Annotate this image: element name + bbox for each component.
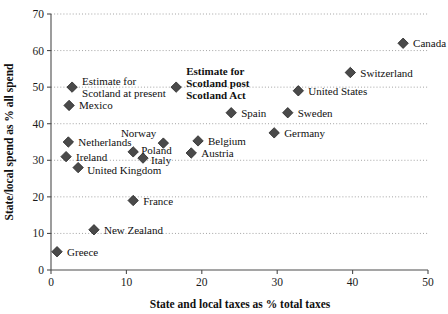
data-point-label: Sweden <box>298 107 333 119</box>
data-point-label: United Kingdom <box>87 164 162 176</box>
y-tick-label: 70 <box>33 8 45 20</box>
y-tick-label: 0 <box>38 264 44 276</box>
gridlines <box>51 14 428 233</box>
y-tick-label: 40 <box>33 118 45 130</box>
x-tick-label: 20 <box>196 276 208 288</box>
data-point-marker <box>63 137 73 147</box>
data-points: CanadaSwitzerlandEstimate forScotland at… <box>52 37 446 257</box>
data-point-marker <box>52 247 62 257</box>
data-point-marker <box>345 67 355 77</box>
data-point-marker <box>398 38 408 48</box>
data-point-label: Norway <box>121 127 157 139</box>
data-point-marker <box>193 136 203 146</box>
data-point-marker <box>64 100 74 110</box>
data-point-label: United States <box>308 85 367 97</box>
plot-area: 010203040506070 01020304050 CanadaSwitze… <box>0 0 448 314</box>
data-point-label: Spain <box>241 107 267 119</box>
data-point-label: France <box>143 195 173 207</box>
y-tick-label: 50 <box>33 81 45 93</box>
data-point-label: Belgium <box>208 135 246 147</box>
data-point-label: Canada <box>413 37 446 49</box>
x-tick-label: 50 <box>422 276 434 288</box>
x-axis: 01020304050 <box>48 270 434 288</box>
data-point-marker <box>128 147 138 157</box>
data-point-marker <box>73 162 83 172</box>
y-tick-label: 10 <box>33 227 45 239</box>
x-tick-label: 30 <box>271 276 283 288</box>
data-point-label: Estimate forScotland at present <box>82 75 166 99</box>
y-tick-label: 30 <box>33 154 45 166</box>
data-point-label: Switzerland <box>360 67 413 79</box>
data-point-label: Ireland <box>76 151 108 163</box>
data-point-marker <box>283 108 293 118</box>
data-point-marker <box>293 86 303 96</box>
data-point-marker <box>269 128 279 138</box>
data-point-marker <box>67 82 77 92</box>
x-tick-label: 10 <box>121 276 133 288</box>
data-point-label: Greece <box>67 246 98 258</box>
data-point-marker <box>171 82 181 92</box>
x-tick-label: 40 <box>347 276 359 288</box>
data-point-marker <box>186 148 196 158</box>
data-point-label: Mexico <box>79 99 113 111</box>
data-point-label: Austria <box>201 147 234 159</box>
y-axis: 010203040506070 <box>33 8 52 276</box>
data-point-marker <box>128 195 138 205</box>
data-point-label: Germany <box>284 127 325 139</box>
data-point-label: New Zealand <box>104 224 163 236</box>
x-axis-title: State and local taxes as % total taxes <box>150 298 331 310</box>
y-axis-title: State/local spend as % all spend <box>3 63 16 220</box>
data-point-marker <box>226 108 236 118</box>
scatter-chart: 010203040506070 01020304050 CanadaSwitze… <box>0 0 448 314</box>
y-tick-label: 60 <box>33 45 45 57</box>
y-tick-label: 20 <box>33 191 45 203</box>
data-point-label: Estimate forScotland postScotland Act <box>186 65 250 101</box>
x-tick-label: 0 <box>48 276 54 288</box>
